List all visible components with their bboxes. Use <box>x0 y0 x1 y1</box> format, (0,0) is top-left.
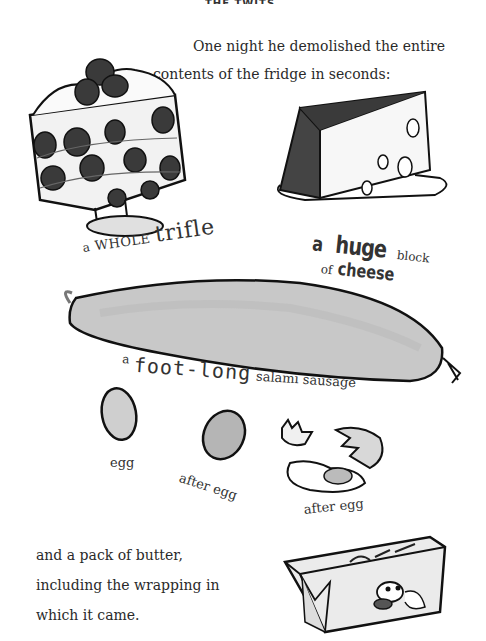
after-egg-caption-2: after egg <box>303 496 364 517</box>
closing-line-2: including the wrapping in <box>36 575 219 595</box>
running-header: THE TWITS CHAPTER <box>205 0 335 4</box>
after-egg-caption-1: after egg <box>177 470 239 503</box>
cheese-illustration <box>265 90 465 205</box>
butter-pack-illustration <box>280 532 450 637</box>
egg-illustration <box>198 408 250 462</box>
egg-caption: egg <box>110 455 134 470</box>
intro-line-1: One night he demolished the entire <box>193 36 445 56</box>
broken-egg-illustration <box>270 418 390 498</box>
trifle-illustration <box>25 40 200 220</box>
closing-line-1: and a pack of butter, <box>36 545 183 565</box>
closing-line-3: which it came. <box>36 605 140 625</box>
egg-illustration <box>98 384 140 444</box>
